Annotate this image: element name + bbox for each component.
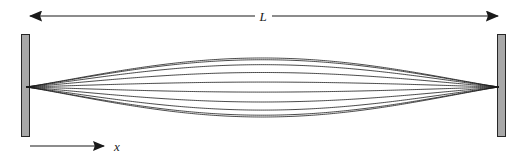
wave-curve (26, 65, 499, 87)
length-dimension-arrow: L (30, 9, 498, 24)
x-axis-arrow: x (30, 139, 120, 154)
wave-curve (26, 82, 499, 87)
wave-curve (26, 87, 499, 92)
wave-curve (26, 87, 499, 110)
wave-curve (26, 87, 499, 115)
left-wall (22, 35, 30, 137)
length-label: L (258, 9, 266, 24)
figure-canvas: L x (0, 0, 530, 158)
right-wall (498, 35, 506, 137)
wave-curve (26, 60, 499, 87)
x-axis-label: x (113, 139, 120, 154)
standing-wave-figure: L x (0, 0, 530, 158)
wave-curve-family (26, 58, 499, 117)
